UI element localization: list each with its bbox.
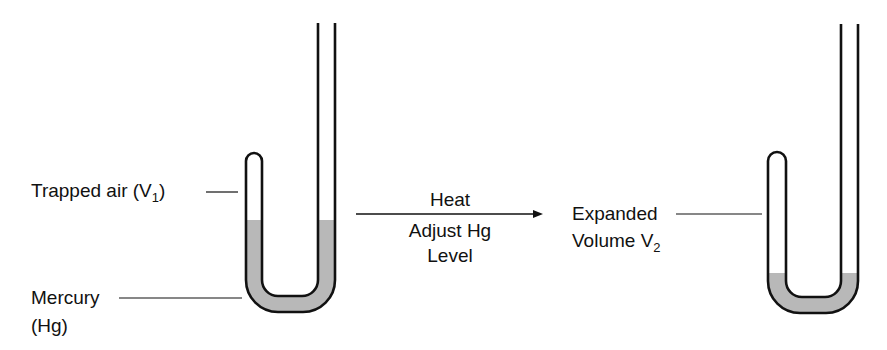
right-u-tube [768, 24, 858, 313]
right-tube-outer-curve [768, 24, 858, 313]
expanded-volume-label: Expanded Volume V2 [572, 203, 661, 252]
trapped-air-label: Trapped air (V1) [31, 180, 165, 202]
arrow-head-icon [533, 210, 543, 218]
right-tube-outer-wall [768, 24, 841, 297]
diagram-canvas [0, 0, 887, 350]
level-label: Level [400, 245, 500, 267]
mercury-label: Mercury (Hg) [31, 287, 100, 337]
left-mercury-fill [246, 220, 335, 312]
adjust-hg-label: Adjust Hg [380, 220, 520, 242]
heat-label: Heat [400, 189, 500, 211]
process-arrow [356, 210, 543, 218]
left-u-tube [246, 23, 335, 312]
